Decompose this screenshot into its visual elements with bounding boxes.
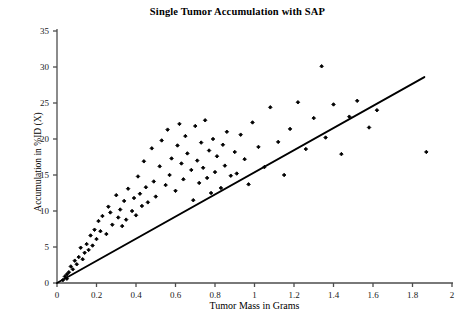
- data-point: [75, 263, 79, 267]
- data-point: [205, 176, 209, 180]
- data-point: [89, 234, 93, 238]
- data-point: [101, 214, 105, 218]
- data-point: [140, 204, 144, 208]
- data-point: [375, 108, 379, 112]
- data-point: [107, 205, 111, 209]
- data-point: [132, 196, 136, 200]
- data-point: [199, 141, 203, 145]
- data-point: [134, 214, 138, 218]
- tick-labels: 0510152025303500.20.40.60.811.21.41.61.8…: [40, 26, 454, 300]
- data-point: [288, 127, 292, 131]
- data-point: [122, 199, 126, 203]
- data-point: [201, 166, 205, 170]
- data-point: [296, 101, 300, 105]
- x-tick-label: 1.6: [367, 290, 379, 300]
- data-point: [209, 191, 213, 195]
- data-point: [174, 189, 178, 193]
- data-point: [152, 180, 156, 184]
- data-point: [190, 168, 194, 172]
- data-point: [95, 237, 99, 241]
- data-point: [138, 192, 142, 196]
- data-point: [320, 65, 324, 69]
- data-point: [367, 126, 371, 129]
- data-point: [425, 150, 429, 154]
- data-point: [194, 124, 198, 128]
- data-point: [221, 143, 225, 147]
- data-point: [233, 150, 237, 154]
- data-point: [130, 209, 134, 213]
- x-tick-label: 0.2: [91, 290, 102, 300]
- data-point: [158, 165, 162, 169]
- y-tick-label: 35: [40, 26, 50, 36]
- data-point: [219, 186, 223, 190]
- data-point: [73, 259, 77, 263]
- data-point: [85, 242, 89, 246]
- data-point: [136, 175, 140, 179]
- trendline-segment: [57, 77, 424, 283]
- data-point: [211, 137, 215, 141]
- x-tick-label: 1: [252, 290, 257, 300]
- data-point: [195, 159, 199, 163]
- data-point: [93, 228, 97, 232]
- data-point: [180, 162, 184, 166]
- data-point: [257, 145, 261, 149]
- data-point: [91, 244, 95, 248]
- data-point: [229, 174, 233, 178]
- data-point: [235, 172, 239, 176]
- data-point: [97, 219, 101, 223]
- y-axis-label: Accumulation in %ID (X): [33, 72, 43, 252]
- data-point: [332, 103, 336, 107]
- data-point: [164, 183, 168, 187]
- data-point: [126, 187, 130, 191]
- data-point: [182, 178, 186, 182]
- x-tick-label: 1.2: [288, 290, 299, 300]
- data-point: [109, 211, 113, 215]
- data-point: [150, 147, 154, 151]
- x-axis-label: Tumor Mass in Grams: [57, 300, 452, 311]
- data-point: [99, 229, 103, 233]
- data-point: [247, 183, 251, 187]
- data-point: [146, 201, 150, 205]
- data-point: [282, 173, 286, 177]
- data-point: [144, 185, 148, 189]
- data-point: [118, 208, 122, 212]
- data-point: [176, 144, 180, 148]
- data-point: [192, 198, 196, 202]
- data-point: [154, 195, 158, 199]
- data-point: [223, 164, 227, 168]
- scatter-plot: 0510152025303500.20.40.60.811.21.41.61.8…: [0, 0, 475, 321]
- axes-group: [53, 29, 453, 287]
- data-point: [81, 257, 85, 261]
- data-point: [115, 193, 119, 197]
- data-point: [83, 251, 87, 255]
- data-point: [304, 147, 308, 151]
- data-point: [166, 128, 170, 132]
- data-point: [120, 224, 124, 228]
- x-tick-label: 0.8: [209, 290, 221, 300]
- trendline: [57, 77, 424, 283]
- data-point: [251, 121, 255, 125]
- data-point: [203, 119, 207, 123]
- data-point: [178, 122, 182, 126]
- data-point: [186, 152, 190, 156]
- data-point: [197, 181, 201, 185]
- y-tick-label: 0: [45, 278, 50, 288]
- data-point: [276, 140, 280, 144]
- x-tick-label: 0: [55, 290, 60, 300]
- data-point: [355, 99, 359, 103]
- data-point: [71, 268, 75, 272]
- data-point: [340, 152, 344, 156]
- data-point: [105, 232, 109, 236]
- data-point: [225, 130, 229, 134]
- chart-figure: Single Tumor Accumulation with SAP 05101…: [0, 0, 475, 321]
- data-point: [77, 255, 81, 258]
- data-point: [184, 134, 188, 138]
- data-point: [239, 133, 243, 137]
- y-tick-label: 5: [45, 242, 50, 252]
- data-point: [87, 248, 91, 252]
- data-point: [213, 170, 217, 174]
- x-tick-label: 0.6: [170, 290, 182, 300]
- x-tick-label: 1.8: [407, 290, 419, 300]
- data-point: [79, 246, 83, 250]
- x-tick-label: 0.4: [130, 290, 142, 300]
